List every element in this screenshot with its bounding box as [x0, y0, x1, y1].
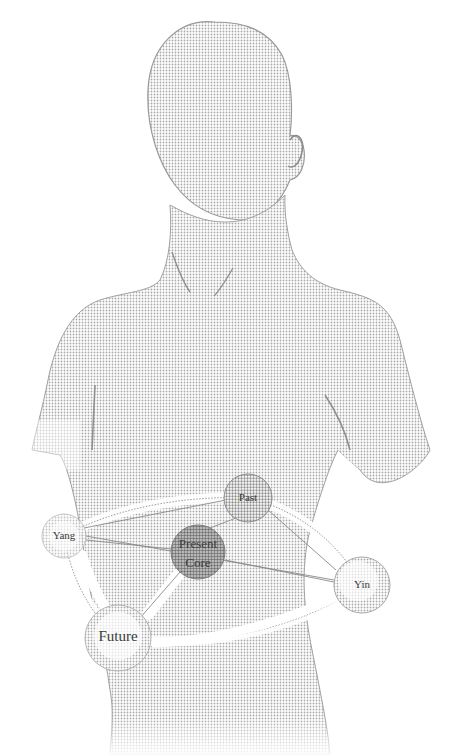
- bottom-fade: [0, 600, 476, 755]
- node-past-label: Past: [239, 491, 257, 503]
- node-past[interactable]: Past: [224, 474, 272, 522]
- left-shoulder-fade: [20, 420, 80, 470]
- node-yin[interactable]: Yin: [334, 557, 390, 613]
- head: [148, 22, 305, 220]
- body-silhouette: [0, 22, 476, 755]
- node-yin-label: Yin: [354, 578, 370, 590]
- node-yang-label: Yang: [53, 529, 76, 541]
- node-future[interactable]: Future: [85, 605, 151, 671]
- node-yang[interactable]: Yang: [41, 513, 87, 559]
- torso-diagram: Past Yang Present Core Yin Future: [0, 0, 476, 755]
- node-present-core-label-line1: Present: [179, 536, 218, 551]
- node-present-core[interactable]: Present Core: [171, 525, 225, 579]
- node-future-label: Future: [98, 628, 138, 644]
- node-present-core-label-line2: Core: [185, 555, 211, 570]
